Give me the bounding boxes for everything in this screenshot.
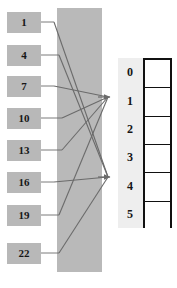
bucket-cell-3[interactable] (145, 145, 170, 173)
key-box-10: 10 (7, 108, 41, 129)
edge-1-to-slot-4 (54, 22, 108, 177)
key-box-label: 22 (19, 248, 30, 259)
edge-22-to-slot-4 (59, 177, 108, 253)
slot-index-3: 3 (119, 151, 141, 163)
bucket-cell-2[interactable] (145, 117, 170, 145)
key-box-label: 13 (19, 145, 30, 156)
key-box-label: 16 (19, 177, 30, 188)
slot-index-5: 5 (119, 208, 141, 220)
bucket-cell-0[interactable] (145, 60, 170, 88)
key-box-13: 13 (7, 140, 41, 161)
bucket-cell-1[interactable] (145, 88, 170, 116)
edge-16-to-slot-4 (54, 177, 108, 182)
key-box-label: 1 (21, 17, 27, 28)
bucket-cell-5[interactable] (145, 202, 170, 230)
key-box-22: 22 (7, 243, 41, 264)
key-box-19: 19 (7, 205, 41, 226)
key-box-label: 4 (21, 50, 27, 61)
bucket-table (143, 58, 172, 228)
key-box-label: 7 (21, 81, 27, 92)
key-box-label: 10 (19, 113, 30, 124)
key-box-1: 1 (7, 12, 41, 33)
bucket-cell-4[interactable] (145, 173, 170, 201)
slot-index-4: 4 (119, 180, 141, 192)
edge-13-to-slot-1 (62, 97, 108, 150)
slot-index-0: 0 (119, 66, 141, 78)
key-box-7: 7 (7, 76, 41, 97)
key-box-4: 4 (7, 45, 41, 66)
key-box-label: 19 (19, 210, 30, 221)
slot-index-1: 1 (119, 95, 141, 107)
hash-table-diagram: 1471013161922 012345 (0, 0, 177, 288)
slot-index-2: 2 (119, 123, 141, 135)
key-box-16: 16 (7, 172, 41, 193)
edge-7-to-slot-1 (54, 86, 108, 97)
